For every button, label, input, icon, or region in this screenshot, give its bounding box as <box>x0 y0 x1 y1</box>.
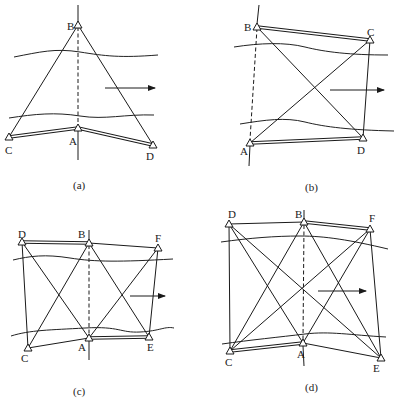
line-dc <box>229 224 230 351</box>
river-bank-upper <box>221 236 388 249</box>
panel-a: B A C D (a) <box>5 5 158 192</box>
line-fc <box>230 229 370 351</box>
label-b: B <box>295 208 302 220</box>
label-c: C <box>367 26 374 38</box>
label-d: D <box>228 208 236 220</box>
panel-d: D B F C A E (d) <box>221 208 388 394</box>
line-fe <box>149 248 158 337</box>
label-a: A <box>69 135 77 147</box>
label-a: A <box>297 348 305 360</box>
line-db <box>229 222 304 224</box>
panel-b: B C A D (b) <box>234 5 394 194</box>
line-bd <box>78 25 153 145</box>
label-e: E <box>147 341 154 353</box>
station-icon-b <box>74 21 82 28</box>
line-bf <box>89 243 158 248</box>
label-f: F <box>155 232 161 244</box>
label-c: C <box>5 144 12 156</box>
line-be <box>89 243 149 337</box>
label-a: A <box>78 341 86 353</box>
line-da <box>229 224 303 343</box>
river-bank-lower <box>9 114 154 118</box>
crossing-line-ba <box>303 225 304 340</box>
label-b: B <box>244 21 251 33</box>
caption-b: (b) <box>305 181 318 194</box>
axis-line-lower <box>249 145 250 166</box>
caption-c: (c) <box>73 385 86 398</box>
river-bank-upper <box>14 50 158 57</box>
line-fe <box>370 229 381 358</box>
label-d: D <box>357 144 365 156</box>
axis-line <box>257 5 259 24</box>
line-be <box>304 222 381 358</box>
label-e: E <box>373 362 380 374</box>
label-a: A <box>240 145 248 157</box>
line-fa <box>303 229 370 343</box>
label-d: D <box>18 228 26 240</box>
river-crossing-triangulation-figure: B A C D (a) B C A D (b) <box>0 0 398 403</box>
label-f: F <box>369 212 375 224</box>
panel-c: D B F C A E (c) <box>11 228 174 398</box>
label-b: B <box>78 228 85 240</box>
river-bank-lower <box>240 119 394 131</box>
line-bc <box>9 25 78 137</box>
river-bank-upper <box>234 44 388 55</box>
line-bc <box>28 243 89 348</box>
label-c: C <box>225 356 232 368</box>
line-ac <box>250 40 370 143</box>
caption-a: (a) <box>73 179 86 192</box>
label-c: C <box>21 352 28 364</box>
line-ae <box>303 343 381 358</box>
label-b: B <box>67 20 74 32</box>
line-bc <box>230 222 304 351</box>
caption-d: (d) <box>305 381 318 394</box>
label-d: D <box>146 150 154 162</box>
line-bd <box>257 27 363 138</box>
